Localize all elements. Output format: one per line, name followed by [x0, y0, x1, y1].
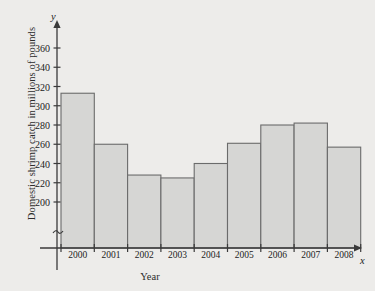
bar-2007: [294, 123, 327, 248]
bar-2008: [327, 147, 360, 248]
y-axis-arrow: [53, 20, 60, 28]
bar-2006: [261, 125, 294, 248]
plot-area: [0, 0, 375, 291]
bar-2000: [61, 93, 94, 248]
bar-2005: [228, 143, 261, 248]
bar-2001: [94, 144, 127, 248]
bar-2002: [128, 175, 161, 248]
bar-chart: y x Domestic shrimp catch in millions of…: [0, 0, 375, 291]
bar-2003: [161, 178, 194, 248]
bar-2004: [194, 164, 227, 249]
